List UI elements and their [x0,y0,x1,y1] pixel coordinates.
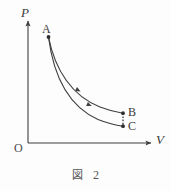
point-marker-c [121,124,125,128]
point-marker-b [121,111,125,115]
point-marker-group [47,35,125,128]
direction-arrow-ab-icon [75,87,82,93]
point-label-a: A [42,23,51,35]
origin-label: O [14,142,23,154]
curve-group [49,37,124,126]
figure-caption: 図2 [0,166,171,183]
y-axis-label: P [21,6,29,19]
point-label-b: B [128,106,136,118]
pv-diagram [0,0,171,191]
point-label-c: C [128,120,136,132]
caption-number: 2 [93,168,100,182]
caption-label: 図 [72,169,84,182]
curve-a-to-b [49,37,124,113]
curve-a-to-c [49,37,124,126]
x-axis-label: V [156,133,164,146]
figure-container: P V O A B C 図2 [0,0,171,191]
